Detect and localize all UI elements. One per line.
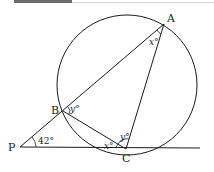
angle-label-a: x°	[149, 37, 159, 47]
angle-label-c-inner: y°	[119, 132, 130, 142]
label-c: C	[122, 152, 130, 165]
chord-bc	[63, 111, 126, 149]
angle-arc-p	[32, 137, 36, 147]
angle-label-b: y°	[69, 104, 80, 114]
label-b: B	[51, 104, 59, 117]
label-a: A	[166, 12, 176, 25]
angle-label-p: 42°	[38, 136, 54, 146]
label-p: P	[8, 141, 16, 154]
angle-label-c-tangent: x°	[104, 141, 114, 151]
angle-arc-a	[157, 30, 161, 34]
geometry-diagram: A B C P 42° x° y° y° x°	[0, 0, 214, 172]
